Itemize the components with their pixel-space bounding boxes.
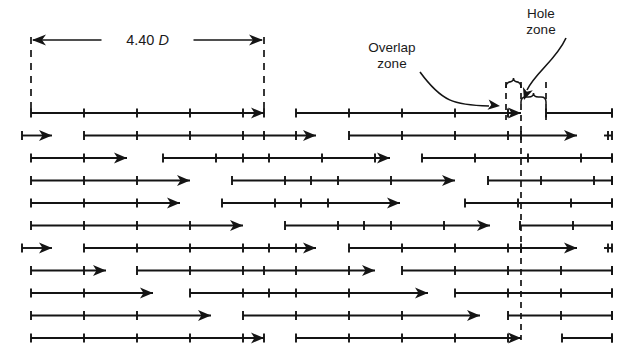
- scan-segment: [243, 310, 480, 321]
- scan-segment: [31, 108, 264, 119]
- scan-segment: [508, 311, 612, 320]
- scan-segment: [84, 243, 316, 254]
- scan-row: [31, 108, 612, 119]
- scan-row: [31, 265, 612, 276]
- scan-segment: [546, 109, 612, 118]
- scan-segment: [137, 265, 375, 276]
- overlap-zone-label-line2: zone: [377, 56, 406, 71]
- hole-zone-label-line1: Hole: [527, 6, 555, 21]
- scan-segment: [402, 266, 612, 275]
- scan-segment: [296, 108, 521, 119]
- scan-row: [22, 130, 612, 141]
- scan-segment: [22, 130, 52, 141]
- overlap-zone-leader-arrowhead: [487, 99, 500, 109]
- scan-segment: [31, 198, 180, 209]
- scan-row: [31, 153, 612, 164]
- scan-segment: [31, 220, 243, 231]
- overlap-zone-label-line1: Overlap: [368, 40, 415, 55]
- scan-segment: [31, 175, 190, 186]
- scan-segment: [285, 220, 490, 231]
- scan-row: [31, 333, 612, 344]
- scan-segment: [31, 333, 264, 344]
- scan-segment: [232, 175, 455, 186]
- scan-pattern-figure: 4.40 D Overlap zone Hole zone: [0, 0, 638, 354]
- scan-row: [31, 310, 612, 321]
- overlap-zone-leader-arrow: [420, 72, 489, 106]
- dashed-zone-lines: [506, 82, 546, 340]
- scan-segment: [163, 153, 390, 164]
- scan-segment: [22, 243, 52, 254]
- scan-segment: [349, 130, 577, 141]
- scan-row: [31, 175, 612, 186]
- scan-segment: [465, 199, 612, 208]
- scan-segment: [520, 221, 612, 230]
- scan-segment: [84, 130, 316, 141]
- scan-row: [22, 243, 612, 254]
- scan-segment: [349, 243, 577, 254]
- scan-segment: [488, 176, 612, 185]
- scan-row: [31, 220, 612, 231]
- scan-segment: [31, 153, 127, 164]
- scan-segment: [604, 131, 612, 140]
- dimension-annotation: 4.40 D: [31, 32, 264, 115]
- scan-segment: [31, 265, 106, 276]
- scan-rows-layer: [22, 108, 612, 344]
- scan-segment: [222, 198, 400, 209]
- scan-segment: [604, 244, 612, 253]
- scan-segment: [31, 288, 153, 299]
- scan-segment: [455, 289, 612, 298]
- zone-annotations: Overlap zone Hole zone: [368, 6, 566, 110]
- hole-zone-label-line2: zone: [526, 22, 555, 37]
- scan-segment: [562, 334, 612, 343]
- overlap-zone-brace: [506, 78, 521, 88]
- dimension-label: 4.40 D: [126, 32, 169, 48]
- scan-row: [31, 288, 612, 299]
- scan-segment: [31, 310, 211, 321]
- scan-row: [31, 198, 612, 209]
- scan-segment: [296, 333, 521, 344]
- scan-segment: [190, 288, 428, 299]
- scan-segment: [422, 154, 612, 163]
